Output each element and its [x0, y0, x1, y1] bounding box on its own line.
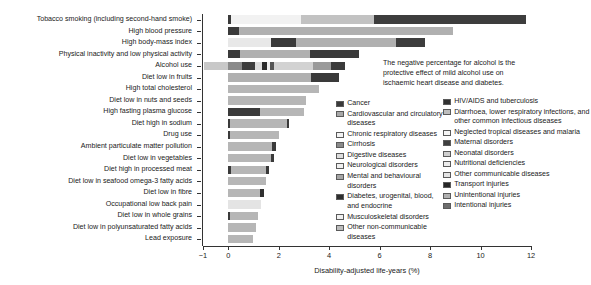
bar-segment [313, 62, 331, 70]
x-tick-label: 6 [368, 251, 392, 260]
legend-item[interactable]: Diarrhoea, lower respiratory infections,… [443, 108, 591, 128]
bar-segment [287, 119, 289, 127]
y-tick-mark [197, 193, 201, 194]
legend-item[interactable]: Cirrhosis [336, 140, 444, 150]
legend-item[interactable]: Cancer [336, 99, 444, 109]
bar-segment [239, 27, 453, 35]
annotation-note: The negative percentage for alcohol is t… [383, 58, 588, 89]
x-axis-title: Disability-adjusted life-years (%) [203, 266, 531, 275]
bar-segment [260, 189, 263, 197]
legend-label: Other communicable diseases [454, 170, 591, 180]
y-tick-mark [197, 181, 201, 182]
bar-segment [228, 62, 242, 70]
x-tick-label: 0 [216, 251, 240, 260]
y-axis-label: High fasting plasma glucose [0, 106, 197, 118]
stacked-bar [228, 38, 425, 46]
bar-segment [204, 62, 228, 70]
bar-segment [228, 73, 311, 81]
legend-item[interactable]: Musculoskeletal disorders [336, 213, 444, 223]
legend-item[interactable]: Chronic respiratory diseases [336, 130, 444, 140]
x-tick-mark [279, 246, 280, 250]
legend-item[interactable]: Neglected tropical diseases and malaria [443, 128, 591, 138]
legend-item[interactable]: Nutritional deficiencies [443, 159, 591, 169]
legend-item[interactable]: Maternal disorders [443, 138, 591, 148]
stacked-bar [228, 50, 359, 58]
bar-segment [271, 154, 274, 162]
bar-segment [274, 62, 313, 70]
y-tick-mark [197, 228, 201, 229]
legend-swatch-icon [443, 151, 451, 157]
y-tick-mark [197, 20, 201, 21]
y-axis-label: Physical inactivity and low physical act… [0, 49, 197, 61]
stacked-bar [204, 62, 344, 70]
legend-label: Neurological disorders [347, 161, 444, 171]
legend-swatch-icon [336, 142, 344, 148]
legend-label: Diabetes, urogenital, blood, and endocri… [347, 192, 444, 212]
y-tick-mark [197, 170, 201, 171]
y-axis-label: Occupational low back pain [0, 199, 197, 211]
legend-label: Unintentional injuries [454, 191, 591, 201]
legend-item[interactable]: Digestive diseases [336, 151, 444, 161]
legend-item[interactable]: HIV/AIDS and tuberculosis [443, 97, 591, 107]
bar-segment [310, 50, 359, 58]
y-tick-mark [197, 101, 201, 102]
y-axis-label: Diet low in seafood omega-3 fatty acids [0, 176, 197, 188]
bar-segment [271, 38, 296, 46]
bar-segment [230, 212, 258, 220]
x-axis-line [203, 246, 531, 247]
y-axis-label: Diet high in processed meat [0, 164, 197, 176]
legend-swatch-icon [443, 109, 451, 115]
legend-label: Mental and behavioural disorders [347, 172, 444, 192]
legend-label: Neonatal disorders [454, 149, 591, 159]
bar-segment [230, 131, 278, 139]
legend-swatch-icon [443, 172, 451, 178]
stacked-bar [228, 189, 263, 197]
bar-segment [301, 15, 374, 23]
legend-label: Cardiovascular and circulatory diseases [347, 110, 444, 130]
y-axis-label: Diet low in polyunsaturated fatty acids [0, 222, 197, 234]
y-axis-label: Diet low in fibre [0, 187, 197, 199]
bar-segment [228, 85, 319, 93]
y-tick-mark [197, 216, 201, 217]
stacked-bar [228, 15, 526, 23]
legend-column-left: CancerCardiovascular and circulatory dis… [336, 99, 444, 244]
legend-item[interactable]: Diabetes, urogenital, blood, and endocri… [336, 192, 444, 212]
legend-item[interactable]: Transport injuries [443, 180, 591, 190]
legend-swatch-icon [336, 153, 344, 159]
legend-item[interactable]: Neonatal disorders [443, 149, 591, 159]
stacked-bar [228, 108, 304, 116]
annotation-line-2: protective effect of mild alcohol use on [383, 68, 588, 78]
legend-item[interactable]: Mental and behavioural disorders [336, 172, 444, 192]
y-axis-label: Tobacco smoking (including second-hand s… [0, 14, 197, 26]
legend-label: Other non-communicable diseases [347, 223, 444, 243]
legend-item[interactable]: Neurological disorders [336, 161, 444, 171]
legend-item[interactable]: Cardiovascular and circulatory diseases [336, 110, 444, 130]
legend-swatch-icon [336, 101, 344, 107]
legend-label: Digestive diseases [347, 151, 444, 161]
y-axis-label: Diet low in fruits [0, 72, 197, 84]
bar-segment [228, 96, 306, 104]
legend-swatch-icon [443, 182, 451, 188]
legend-swatch-icon [443, 99, 451, 105]
legend-item[interactable]: Unintentional injuries [443, 191, 591, 201]
bar-segment [228, 38, 271, 46]
legend-label: Nutritional deficiencies [454, 159, 591, 169]
legend-item[interactable]: Intentional injuries [443, 201, 591, 211]
bar-segment [228, 223, 256, 231]
stacked-bar [228, 142, 276, 150]
legend-item[interactable]: Other non-communicable diseases [336, 223, 444, 243]
stacked-bar [228, 154, 273, 162]
stacked-bar [228, 235, 253, 243]
y-tick-mark [197, 124, 201, 125]
bar-segment [228, 200, 261, 208]
bar-segment [230, 119, 287, 127]
stacked-bar [228, 73, 339, 81]
x-tick-mark [203, 246, 204, 250]
bar-segment [260, 108, 304, 116]
y-tick-mark [197, 66, 201, 67]
legend-item[interactable]: Other communicable diseases [443, 170, 591, 180]
y-axis-label: Diet low in whole grains [0, 210, 197, 222]
bar-segment [228, 142, 272, 150]
annotation-line-3: ischaemic heart disease and diabetes. [383, 78, 588, 88]
